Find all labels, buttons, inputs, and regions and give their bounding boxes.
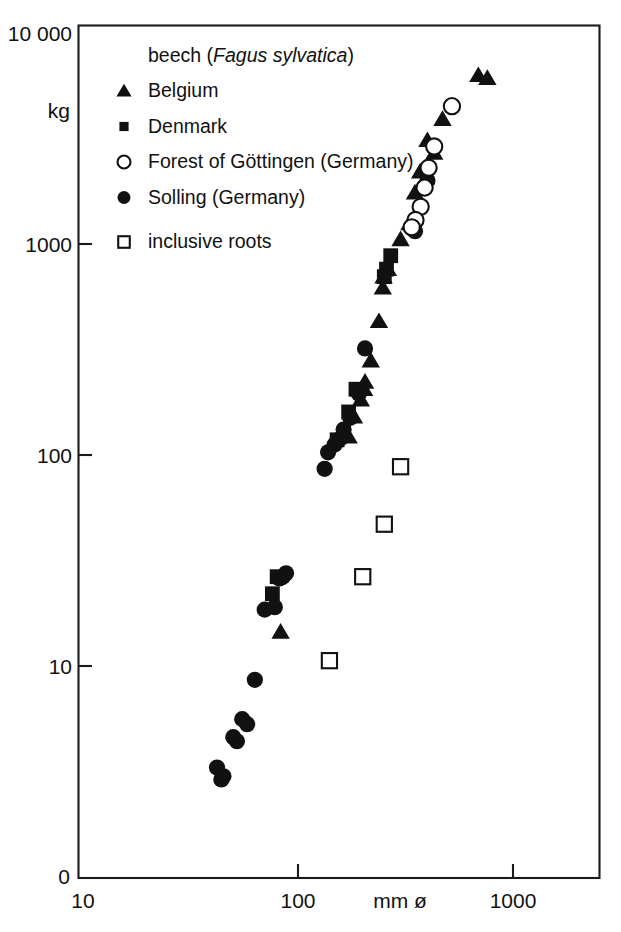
legend-swatch-filled-triangle-icon <box>116 84 131 97</box>
data-point <box>213 771 229 787</box>
legend-item-open-circle[interactable]: Forest of Göttingen (Germany) <box>118 150 414 172</box>
legend-item-label: Solling (Germany) <box>148 186 305 208</box>
legend-item-label: inclusive roots <box>148 230 272 252</box>
x-tick-label-100: 100 <box>280 889 315 912</box>
y-axis-tick-labels: 10 0001000100100 <box>8 22 72 889</box>
legend-item-filled-square[interactable]: Denmark <box>119 115 227 137</box>
y-tick-label-100: 100 <box>37 444 72 467</box>
data-point <box>377 269 392 284</box>
data-point <box>416 180 432 196</box>
legend-item-label: Denmark <box>148 115 227 137</box>
data-point <box>383 248 398 263</box>
y-tick-label-10000: 10 000 <box>8 22 72 45</box>
legend-swatch-open-square-icon <box>118 236 130 248</box>
x-axis-ticks <box>298 864 513 878</box>
x-axis-tick-labels: 101001000 <box>71 889 536 912</box>
y-axis-ticks <box>79 244 93 666</box>
legend-item-filled-circle[interactable]: Solling (Germany) <box>118 186 306 208</box>
legend: beech (Fagus sylvatica) BelgiumDenmarkFo… <box>116 44 413 252</box>
legend-items: BelgiumDenmarkForest of Göttingen (Germa… <box>116 79 413 252</box>
data-point <box>377 517 392 532</box>
x-axis-title: mm ø <box>373 889 427 912</box>
x-tick-label-10: 10 <box>71 889 94 912</box>
data-point <box>265 586 280 601</box>
y-axis-title: kg <box>48 99 70 122</box>
figure-container: 10 0001000100100 101001000 kg mm ø beech… <box>0 0 621 932</box>
series-filled-circle <box>209 172 436 787</box>
data-point <box>357 340 373 356</box>
data-point <box>247 672 263 688</box>
scatter-plot: 10 0001000100100 101001000 kg mm ø beech… <box>0 0 621 932</box>
legend-swatch-filled-square-icon <box>119 122 128 131</box>
data-point <box>322 653 337 668</box>
data-point <box>271 570 287 586</box>
legend-item-open-square[interactable]: inclusive roots <box>118 230 272 252</box>
legend-item-label: Forest of Göttingen (Germany) <box>148 150 414 172</box>
data-point <box>426 138 442 154</box>
legend-title-species: Fagus sylvatica <box>213 44 348 66</box>
data-point <box>370 312 388 328</box>
data-point <box>404 219 420 235</box>
y-tick-label-10: 10 <box>49 655 72 678</box>
series-open-square <box>322 459 408 668</box>
legend-title-common: beech ( <box>148 44 214 66</box>
data-point <box>229 733 245 749</box>
data-points-layer <box>209 66 497 787</box>
data-point <box>421 160 437 176</box>
data-point <box>444 98 460 114</box>
legend-title-close: ) <box>347 44 354 66</box>
legend-swatch-open-circle-icon <box>118 156 131 169</box>
data-point <box>317 461 333 477</box>
legend-title: beech (Fagus sylvatica) <box>148 44 354 66</box>
data-point <box>351 386 367 402</box>
data-point <box>267 599 283 615</box>
data-point <box>393 459 408 474</box>
series-filled-square <box>265 248 398 601</box>
y-tick-label-origin: 0 <box>58 865 70 888</box>
data-point <box>320 444 336 460</box>
legend-item-label: Belgium <box>148 79 218 101</box>
data-point <box>239 716 255 732</box>
data-point <box>271 623 289 639</box>
legend-swatch-filled-circle-icon <box>118 191 131 204</box>
y-tick-label-1000: 1000 <box>25 233 72 256</box>
legend-item-filled-triangle[interactable]: Belgium <box>116 79 218 101</box>
data-point <box>355 569 370 584</box>
x-tick-label-1000: 1000 <box>490 889 537 912</box>
